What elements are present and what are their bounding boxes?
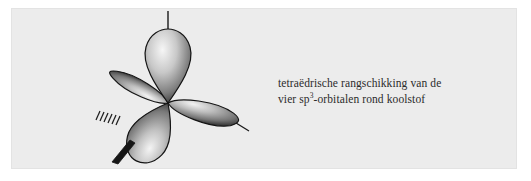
caption-line-2: vier sp3-orbitalen rond koolstof [278,92,493,108]
caption-line-1: tetraëdrische rangschikking van de [278,76,493,92]
caption-line-2-pre: vier sp [278,93,310,105]
caption-block: tetraëdrische rangschikking van de vier … [278,76,493,107]
caption-line-2-post: -orbitalen rond koolstof [314,93,426,105]
lobe-right-back [165,93,241,131]
orbital-diagram-svg [0,0,270,181]
bond-back-hashed [96,111,120,125]
figure-root: tetraëdrische rangschikking van de vier … [0,0,531,181]
orbital-diagram [0,0,270,181]
